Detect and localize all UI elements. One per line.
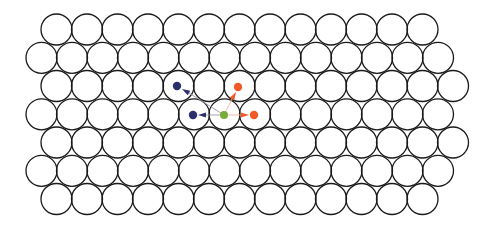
arrowhead-icon (182, 89, 190, 95)
atom-circle (87, 42, 118, 73)
atom-circle (423, 99, 454, 130)
atom-circle (301, 99, 332, 130)
lattice-svg (0, 0, 490, 229)
atom-circle (72, 14, 103, 45)
atom-circle (41, 71, 72, 102)
atom-circle (301, 42, 332, 73)
atom-circle (240, 155, 271, 186)
atom-circle (316, 127, 347, 158)
atom-circle (163, 184, 194, 215)
atom-circle (285, 184, 316, 215)
atom-circle (209, 155, 240, 186)
atom-circle (194, 127, 225, 158)
atom-circle (255, 127, 286, 158)
atom-circle (102, 14, 133, 45)
atom-circle (270, 42, 301, 73)
atom-circle (72, 71, 103, 102)
atom-circle (346, 127, 377, 158)
atom-circle (87, 99, 118, 130)
atom-circle (392, 155, 423, 186)
atom-circle (407, 71, 438, 102)
atom-circle (148, 155, 179, 186)
atom-circle (102, 71, 133, 102)
atom-circle (224, 14, 255, 45)
atom-circle (26, 99, 57, 130)
atom-circle (57, 99, 88, 130)
atom-circle (224, 127, 255, 158)
atom-circle (163, 14, 194, 45)
atom-circle (423, 155, 454, 186)
atom-circle (102, 127, 133, 158)
neighbor-orange-right (250, 111, 258, 119)
atom-circle (194, 184, 225, 215)
atom-circle (407, 14, 438, 45)
atom-circle (163, 127, 194, 158)
atom-circle (346, 71, 377, 102)
neighbor-orange-upper (234, 83, 242, 91)
atom-circle (316, 71, 347, 102)
atom-circle (438, 71, 469, 102)
atom-circle (26, 155, 57, 186)
atom-circle (179, 155, 210, 186)
atom-circle (57, 42, 88, 73)
atom-circle (255, 71, 286, 102)
atom-circle (194, 71, 225, 102)
atom-circle (270, 99, 301, 130)
atom-grid (26, 14, 469, 215)
atom-circle (285, 14, 316, 45)
atom-circle (240, 42, 271, 73)
atom-circle (362, 155, 393, 186)
atom-circle (346, 184, 377, 215)
atom-circle (133, 127, 164, 158)
atom-circle (118, 99, 149, 130)
atom-circle (301, 155, 332, 186)
atom-circle (392, 99, 423, 130)
atom-circle (377, 184, 408, 215)
atom-circle (26, 42, 57, 73)
atom-circle (148, 42, 179, 73)
atom-circle (362, 42, 393, 73)
atom-circle (133, 184, 164, 215)
atom-circle (209, 42, 240, 73)
atom-circle (72, 184, 103, 215)
neighbor-navy-left (189, 111, 197, 119)
atom-circle (102, 184, 133, 215)
atom-circle (316, 184, 347, 215)
atom-circle (133, 71, 164, 102)
atom-circle (87, 155, 118, 186)
atom-circle (57, 155, 88, 186)
arrowhead-icon (198, 112, 206, 117)
atom-circle (118, 42, 149, 73)
atom-circle (255, 14, 286, 45)
atom-circle (407, 184, 438, 215)
atom-circle (331, 99, 362, 130)
atom-circle (377, 71, 408, 102)
atom-circle (72, 127, 103, 158)
neighbor-navy-upper (173, 82, 181, 90)
atom-circle (285, 71, 316, 102)
atom-circle (407, 127, 438, 158)
atom-circle (377, 127, 408, 158)
lattice-diagram (0, 0, 490, 229)
atom-circle (224, 184, 255, 215)
atom-circle (362, 99, 393, 130)
atom-circle (285, 127, 316, 158)
atom-circle (392, 42, 423, 73)
atom-circle (316, 14, 347, 45)
atom-circle (423, 42, 454, 73)
atom-circle (41, 127, 72, 158)
origin-site (220, 111, 228, 119)
atom-circle (255, 184, 286, 215)
atom-circle (331, 42, 362, 73)
atom-circle (148, 99, 179, 130)
atom-circle (133, 14, 164, 45)
atom-circle (331, 155, 362, 186)
atom-circle (41, 184, 72, 215)
atom-circle (194, 14, 225, 45)
atom-circle (118, 155, 149, 186)
atom-circle (438, 127, 469, 158)
atom-circle (377, 14, 408, 45)
atom-circle (346, 14, 377, 45)
atom-circle (41, 14, 72, 45)
atom-circle (270, 155, 301, 186)
